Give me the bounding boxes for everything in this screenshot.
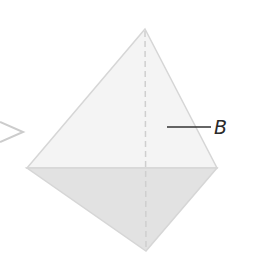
face-label-b: B — [214, 118, 227, 137]
lower-face — [27, 168, 217, 251]
partial-triangle-left — [0, 122, 23, 142]
upper-face — [27, 29, 217, 168]
